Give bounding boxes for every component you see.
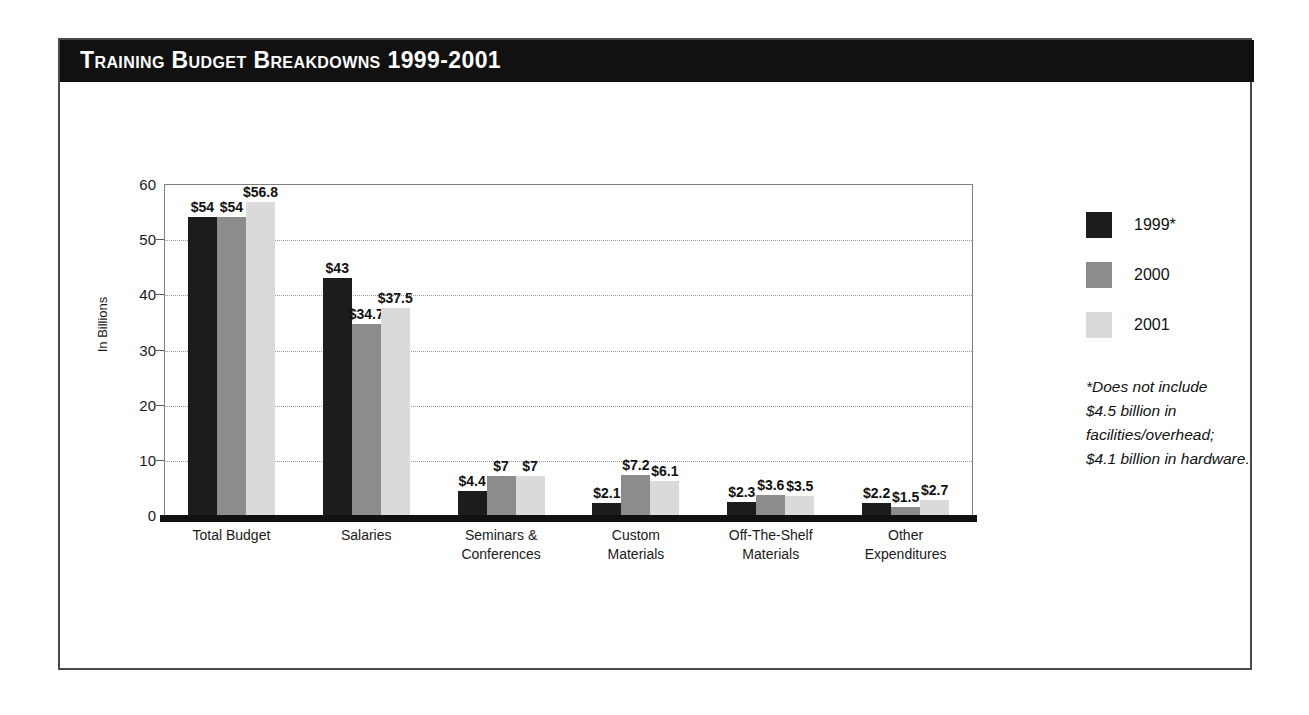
x-label-line: Total Budget xyxy=(164,526,299,545)
footnote: *Does not include$4.5 billion infaciliti… xyxy=(1086,375,1301,471)
bar[interactable]: $3.6 xyxy=(756,495,785,515)
bar[interactable]: $7.2 xyxy=(621,475,650,515)
footnote-line: $4.5 billion in xyxy=(1086,399,1301,423)
page-title: Training Budget Breakdowns 1999-2001 xyxy=(80,47,501,74)
bar[interactable]: $2.7 xyxy=(920,500,949,515)
bar-value-label: $56.8 xyxy=(243,184,278,200)
bar[interactable]: $54 xyxy=(217,217,246,515)
bar-value-label: $54 xyxy=(191,199,214,215)
bar-value-label: $54 xyxy=(220,199,243,215)
bar[interactable]: $1.5 xyxy=(891,507,920,515)
bar-value-label: $1.5 xyxy=(892,489,919,505)
bar-value-label: $7 xyxy=(493,458,509,474)
bar[interactable]: $43 xyxy=(323,278,352,515)
figure-frame: Training Budget Breakdowns 1999-2001 010… xyxy=(58,38,1252,670)
bar[interactable]: $2.3 xyxy=(727,502,756,515)
legend-item[interactable]: 1999* xyxy=(1086,200,1286,250)
bar-value-label: $3.5 xyxy=(786,478,813,494)
bar-value-label: $34.7 xyxy=(349,306,384,322)
bar-value-label: $7.2 xyxy=(622,457,649,473)
bars-layer: $54$54$56.8$43$34.7$37.5$4.4$7$7$2.1$7.2… xyxy=(164,184,973,515)
y-tick-mark xyxy=(156,239,164,240)
bar-value-label: $43 xyxy=(326,260,349,276)
bar-value-label: $4.4 xyxy=(458,473,485,489)
y-tick-label: 50 xyxy=(116,231,156,248)
bar[interactable]: $56.8 xyxy=(246,202,275,515)
legend-swatch-2001 xyxy=(1086,312,1112,338)
chart-canvas: 0102030405060 In Billions $54$54$56.8$43… xyxy=(60,82,1254,670)
bar[interactable]: $7 xyxy=(487,476,516,515)
bar[interactable]: $4.4 xyxy=(458,491,487,515)
legend: 1999*20002001 xyxy=(1086,200,1286,350)
footnote-line: $4.1 billion in hardware. xyxy=(1086,447,1301,471)
bar[interactable]: $3.5 xyxy=(785,496,814,515)
x-axis-line xyxy=(160,515,977,522)
x-axis-category-label: OtherExpenditures xyxy=(838,526,973,564)
x-label-line: Conferences xyxy=(434,545,569,564)
legend-swatch-1999 xyxy=(1086,212,1112,238)
bar-group: $54$54$56.8 xyxy=(188,184,275,515)
bar[interactable]: $2.2 xyxy=(862,503,891,515)
bar-group: $2.2$1.5$2.7 xyxy=(862,184,949,515)
bar-value-label: $2.7 xyxy=(921,482,948,498)
x-label-line: Materials xyxy=(569,545,704,564)
legend-swatch-2000 xyxy=(1086,262,1112,288)
x-axis-category-label: Total Budget xyxy=(164,526,299,545)
legend-item[interactable]: 2000 xyxy=(1086,250,1286,300)
x-label-line: Salaries xyxy=(299,526,434,545)
y-tick-mark xyxy=(156,350,164,351)
x-label-line: Expenditures xyxy=(838,545,973,564)
bar-value-label: $6.1 xyxy=(651,463,678,479)
y-tick-label: 60 xyxy=(116,176,156,193)
x-label-line: Seminars & xyxy=(434,526,569,545)
x-label-line: Custom xyxy=(569,526,704,545)
x-axis-category-label: Seminars &Conferences xyxy=(434,526,569,564)
x-axis-category-label: Salaries xyxy=(299,526,434,545)
x-axis-category-label: Off-The-ShelfMaterials xyxy=(703,526,838,564)
footnote-line: facilities/overhead; xyxy=(1086,423,1301,447)
y-tick-mark xyxy=(156,294,164,295)
bar-group: $2.3$3.6$3.5 xyxy=(727,184,814,515)
title-banner: Training Budget Breakdowns 1999-2001 xyxy=(60,40,1254,82)
y-tick-label: 20 xyxy=(116,396,156,413)
bar-group: $4.4$7$7 xyxy=(458,184,545,515)
y-axis-ticks: 0102030405060 xyxy=(104,184,156,515)
bar-value-label: $7 xyxy=(522,458,538,474)
bar[interactable]: $54 xyxy=(188,217,217,515)
y-tick-mark xyxy=(156,460,164,461)
x-label-line: Materials xyxy=(703,545,838,564)
x-axis-category-label: CustomMaterials xyxy=(569,526,704,564)
legend-item-label: 1999* xyxy=(1134,216,1176,234)
bar[interactable]: $37.5 xyxy=(381,308,410,515)
bar-value-label: $2.3 xyxy=(728,484,755,500)
bar[interactable]: $6.1 xyxy=(650,481,679,515)
bar-group: $43$34.7$37.5 xyxy=(323,184,410,515)
x-label-line: Off-The-Shelf xyxy=(703,526,838,545)
y-tick-label: 10 xyxy=(116,451,156,468)
y-tick-label: 30 xyxy=(116,341,156,358)
y-tick-mark xyxy=(156,405,164,406)
bar[interactable]: $7 xyxy=(516,476,545,515)
legend-item[interactable]: 2001 xyxy=(1086,300,1286,350)
x-label-line: Other xyxy=(838,526,973,545)
bar-value-label: $3.6 xyxy=(757,477,784,493)
x-axis-labels: Total BudgetSalariesSeminars &Conference… xyxy=(164,526,973,586)
y-tick-label: 40 xyxy=(116,286,156,303)
bar-value-label: $2.1 xyxy=(593,485,620,501)
y-axis-title: In Billions xyxy=(95,265,110,385)
bar-value-label: $2.2 xyxy=(863,485,890,501)
bar-group: $2.1$7.2$6.1 xyxy=(592,184,679,515)
legend-item-label: 2000 xyxy=(1134,266,1170,284)
bar-value-label: $37.5 xyxy=(378,290,413,306)
bar[interactable]: $2.1 xyxy=(592,503,621,515)
bar[interactable]: $34.7 xyxy=(352,324,381,515)
legend-item-label: 2001 xyxy=(1134,316,1170,334)
footnote-line: *Does not include xyxy=(1086,375,1301,399)
y-tick-label: 0 xyxy=(116,507,156,524)
